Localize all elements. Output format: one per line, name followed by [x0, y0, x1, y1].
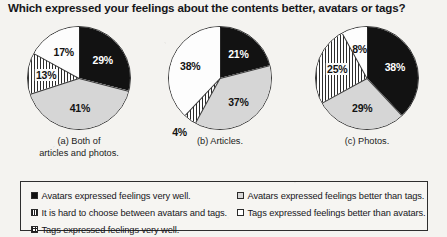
figure-title: Which expressed your feelings about the …	[8, 1, 443, 14]
legend-swatch-stripe-icon	[31, 209, 38, 216]
legend-swatch-black-icon	[31, 192, 38, 199]
pie-c-wrap: 38% 29% 25% 8%	[315, 26, 419, 130]
legend-item-right-1: Tags expressed feelings better than avat…	[237, 205, 426, 220]
pie-a-caption-line1: (a) Both of	[24, 136, 134, 148]
legend-item-left-1: It is hard to choose between avatars and…	[31, 205, 227, 220]
pie-a-label-3: 17%	[54, 46, 74, 58]
pie-a-wrap: 29% 41% 13% 17%	[27, 26, 131, 130]
legend-column-right: Avatars expressed feelings better than t…	[237, 188, 426, 222]
legend-label: Avatars expressed feelings better than t…	[248, 191, 425, 201]
pie-c-label-0: 38%	[385, 61, 405, 73]
pie-c-label-1: 29%	[352, 102, 372, 114]
pie-a-caption: (a) Both of articles and photos.	[24, 136, 134, 159]
pie-a-caption-line2: articles and photos.	[24, 148, 134, 160]
legend-swatch-cross-icon	[31, 226, 38, 233]
legend-label: Avatars expressed feelings very well.	[42, 191, 191, 201]
pie-c-label-2: 25%	[326, 63, 348, 75]
legend-label: It is hard to choose between avatars and…	[42, 208, 228, 218]
legend-box: Avatars expressed feelings very well.It …	[20, 181, 428, 231]
pie-chart-c: 38% 29% 25% 8% (c) Photos.	[312, 26, 422, 148]
pie-c-graphic	[315, 26, 419, 130]
legend-item-left-0: Avatars expressed feelings very well.	[31, 188, 227, 203]
legend-swatch-white-icon	[237, 209, 244, 216]
legend-swatch-gray-icon	[237, 192, 244, 199]
legend-column-left: Avatars expressed feelings very well.It …	[31, 188, 227, 237]
pie-chart-b: 21% 37% 4% 38% (b) Articles.	[165, 26, 275, 148]
pie-c-label-3: 8%	[352, 43, 367, 55]
legend-label: Tags expressed feelings better than avat…	[248, 208, 426, 218]
pie-a-label-2: 13%	[35, 69, 57, 81]
legend-label: Tags expressed feelings very well.	[42, 225, 180, 235]
pie-b-label-2: 4%	[172, 126, 187, 138]
legend-item-right-0: Avatars expressed feelings better than t…	[237, 188, 426, 203]
pie-c-caption: (c) Photos.	[312, 136, 422, 148]
pie-a-label-1: 41%	[70, 102, 90, 114]
pie-b-label-0: 21%	[228, 48, 248, 60]
pie-a-label-0: 29%	[92, 54, 112, 66]
pie-b-graphic	[168, 26, 272, 130]
pie-b-label-1: 37%	[228, 96, 248, 108]
pie-c-caption-line1: (c) Photos.	[312, 136, 422, 148]
legend-item-left-2: Tags expressed feelings very well.	[31, 222, 227, 237]
pie-b-wrap: 21% 37% 4% 38%	[168, 26, 272, 130]
pie-b-label-3: 38%	[180, 60, 200, 72]
pie-chart-a: 29% 41% 13% 17% (a) Both of articles and…	[24, 26, 134, 159]
